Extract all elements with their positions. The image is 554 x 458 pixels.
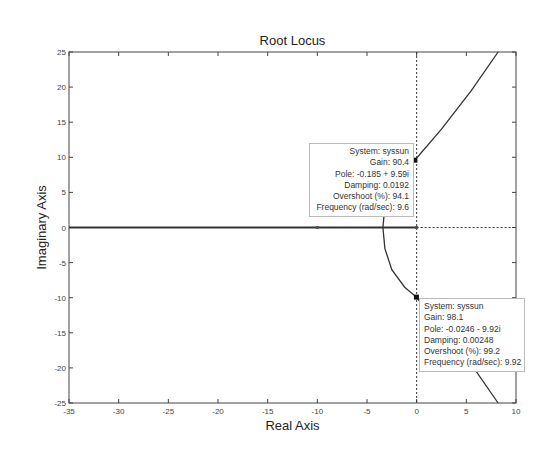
y-tick-label: -5 [59,259,67,268]
y-tick-label: 20 [57,83,66,92]
datatip-line: Overshoot (%): 99.2 [424,346,520,357]
datatip-line: Frequency (rad/sec): 9.92 [424,357,520,368]
y-tick-label: -15 [54,329,66,338]
x-tick-label: -5 [363,407,371,416]
x-tick-label: -25 [163,407,175,416]
y-tick-label: 25 [57,48,66,57]
y-tick-label: 5 [62,188,67,197]
y-tick-label: 0 [62,224,67,233]
x-tick-label: -30 [113,407,125,416]
y-tick-label: 15 [57,118,66,127]
y-tick-label: -10 [54,294,66,303]
datatip-upper[interactable]: System: syssun Gain: 90.4 Pole: -0.185 +… [309,143,414,217]
datatip-line: Damping: 0.0192 [314,180,409,191]
datatip-line: Frequency (rad/sec): 9.6 [314,202,409,213]
x-tick-label: 0 [414,407,419,416]
x-tick-label: -35 [63,407,75,416]
y-tick-label: -20 [54,364,66,373]
datatip-line: Pole: -0.185 + 9.59i [314,169,409,180]
locus-marker [415,226,418,229]
datatip-line: System: syssun [424,301,520,312]
datatip-line: Overshoot (%): 94.1 [314,191,409,202]
y-axis-label: Imaginary Axis [34,185,49,270]
x-tick-label: 5 [464,407,469,416]
y-tick-label: -25 [54,399,66,408]
datatip-line: Gain: 90.4 [314,157,409,168]
datatip-line: Damping: 0.00248 [424,335,520,346]
plot-canvas: -35-30-25-20-15-10-505102520151050-5-10-… [0,0,554,458]
x-tick-label: -20 [212,407,224,416]
datatip-line: Pole: -0.0246 - 9.92i [424,324,520,335]
x-tick-label: -10 [312,407,324,416]
datatip-lower[interactable]: System: syssun Gain: 98.1 Pole: -0.0246 … [419,298,525,372]
root-locus-figure: -35-30-25-20-15-10-505102520151050-5-10-… [0,0,554,458]
y-tick-label: 10 [57,153,66,162]
locus-marker [316,226,319,229]
chart-title: Root Locus [260,33,326,48]
x-tick-label: 10 [512,407,521,416]
datatip-line: System: syssun [314,146,409,157]
datatip-line: Gain: 98.1 [424,312,520,323]
x-axis-label: Real Axis [265,418,320,433]
x-tick-label: -15 [262,407,274,416]
